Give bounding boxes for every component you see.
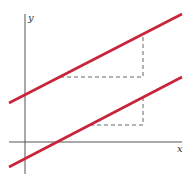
x-axis-label: x bbox=[177, 143, 183, 154]
parallel-lines-diagram: y x bbox=[0, 0, 192, 179]
y-axis-label: y bbox=[27, 12, 34, 23]
